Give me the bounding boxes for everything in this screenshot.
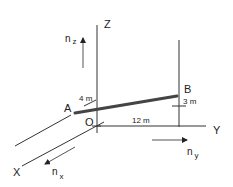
ny-sub: y bbox=[195, 151, 199, 160]
x-axis bbox=[22, 122, 104, 166]
z-axis-label: Z bbox=[104, 18, 111, 30]
rod-3d-diagram: Z Y X O A B 4 m 3 m 12 m nz ny nx bbox=[0, 0, 233, 187]
ny-base: n bbox=[187, 146, 193, 157]
y-axis-label: Y bbox=[213, 124, 221, 136]
dim-12m-label: 12 m bbox=[132, 116, 150, 125]
nx-label: nx bbox=[52, 166, 64, 181]
a-parallel-line bbox=[15, 115, 71, 146]
nz-sub: z bbox=[73, 37, 77, 46]
nz-label: nz bbox=[65, 33, 77, 46]
nx-arrow-icon bbox=[45, 147, 75, 164]
ny-label: ny bbox=[187, 146, 199, 160]
dim-3m-label: 3 m bbox=[183, 97, 197, 106]
dim-4m-label: 4 m bbox=[79, 94, 93, 103]
point-a-label: A bbox=[64, 102, 72, 114]
point-b-label: B bbox=[184, 83, 191, 95]
nx-base: n bbox=[52, 166, 58, 177]
origin-label: O bbox=[85, 116, 94, 128]
nx-sub: x bbox=[60, 172, 64, 181]
x-axis-label: X bbox=[13, 166, 21, 178]
nz-base: n bbox=[65, 33, 71, 44]
